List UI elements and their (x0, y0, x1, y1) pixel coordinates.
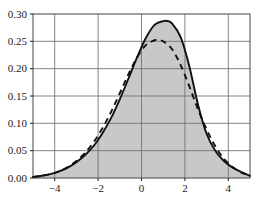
x-tick-label: 0 (139, 182, 145, 194)
y-tick-label: 0.25 (8, 35, 28, 47)
density-comparison-chart: 0.000.050.100.150.200.250.30 −4−2024 (0, 0, 268, 210)
y-tick-label: 0.30 (8, 8, 28, 20)
x-tick-label: −2 (92, 182, 104, 194)
y-tick-label: 0.05 (8, 144, 28, 156)
x-tick-label: 2 (182, 182, 188, 194)
x-tick-label: 4 (226, 182, 232, 194)
x-tick-label: −4 (49, 182, 61, 194)
y-tick-label: 0.20 (8, 62, 28, 74)
y-tick-label: 0.10 (8, 117, 28, 129)
y-tick-label: 0.00 (8, 172, 28, 184)
y-tick-label: 0.15 (8, 90, 28, 102)
